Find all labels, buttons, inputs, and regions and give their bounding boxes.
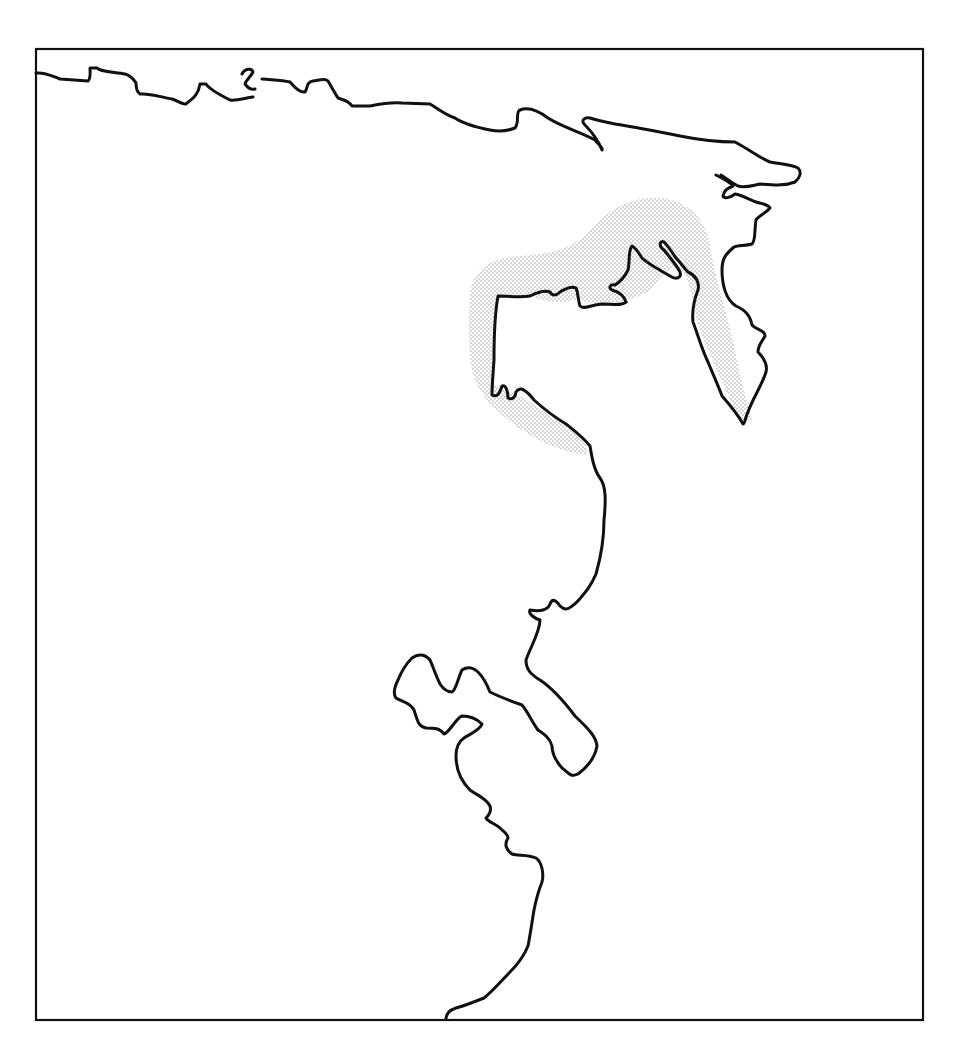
map-canvas xyxy=(0,0,964,1053)
map-frame xyxy=(36,49,923,1020)
highlighted-coastal-zone xyxy=(469,198,752,455)
southern-bay-coast xyxy=(394,655,542,1019)
northern-coastline xyxy=(36,68,800,187)
